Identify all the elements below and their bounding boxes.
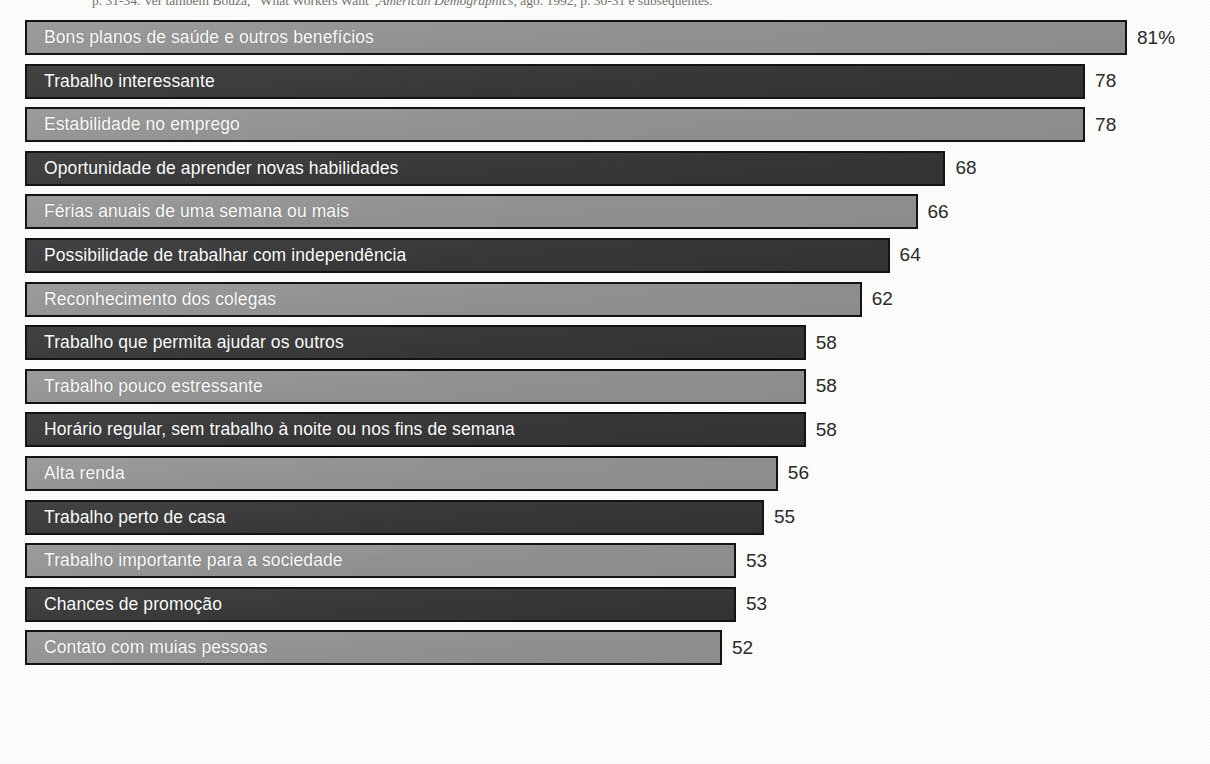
bar-value-label: 52 <box>732 630 753 665</box>
bar-category-label: Bons planos de saúde e outros benefícios <box>27 28 374 47</box>
horizontal-bar-chart: Bons planos de saúde e outros benefícios… <box>0 16 1210 764</box>
bar-value-label: 78 <box>1095 107 1116 142</box>
bar-category-label: Estabilidade no emprego <box>27 115 240 134</box>
bar-value-label: 58 <box>816 369 837 404</box>
bar-category-label: Horário regular, sem trabalho à noite ou… <box>27 420 515 439</box>
bar-category-label: Trabalho pouco estressante <box>27 377 263 396</box>
bar: Trabalho que permita ajudar os outros <box>25 325 806 360</box>
bar-row: Possibilidade de trabalhar com independê… <box>0 234 1210 278</box>
bar-category-label: Trabalho importante para a sociedade <box>27 551 343 570</box>
bar: Reconhecimento dos colegas <box>25 282 862 317</box>
bar-row: Bons planos de saúde e outros benefícios… <box>0 16 1210 60</box>
bar-value-label: 53 <box>746 543 767 578</box>
bar-value-label: 58 <box>816 325 837 360</box>
bar: Trabalho interessante <box>25 64 1085 99</box>
bar: Trabalho perto de casa <box>25 500 764 535</box>
bar: Trabalho pouco estressante <box>25 369 806 404</box>
bar-category-label: Alta renda <box>27 464 125 483</box>
citation-source-title: American Demographics <box>378 0 513 8</box>
bar: Bons planos de saúde e outros benefícios <box>25 20 1127 55</box>
bar: Trabalho importante para a sociedade <box>25 543 736 578</box>
bar-row: Alta renda56 <box>0 452 1210 496</box>
bar-row: Férias anuais de uma semana ou mais66 <box>0 190 1210 234</box>
bar-category-label: Trabalho perto de casa <box>27 508 226 527</box>
bar-category-label: Contato com muias pessoas <box>27 638 267 657</box>
bar-value-label: 56 <box>788 456 809 491</box>
bar: Horário regular, sem trabalho à noite ou… <box>25 412 806 447</box>
bar-category-label: Oportunidade de aprender novas habilidad… <box>27 159 398 178</box>
bar-row: Contato com muias pessoas52 <box>0 626 1210 670</box>
bar-value-label: 55 <box>774 500 795 535</box>
bar-row: Trabalho interessante78 <box>0 60 1210 104</box>
chart-page: p. 31-34. Ver também Bouza, “What Worker… <box>0 0 1210 764</box>
bar-value-label: 58 <box>816 412 837 447</box>
bar-value-label: 62 <box>872 282 893 317</box>
bar-value-label: 53 <box>746 587 767 622</box>
bar: Oportunidade de aprender novas habilidad… <box>25 151 945 186</box>
bar-value-label: 68 <box>955 151 976 186</box>
bar-row: Chances de promoção53 <box>0 583 1210 627</box>
bar-row: Trabalho que permita ajudar os outros58 <box>0 321 1210 365</box>
bar-category-label: Possibilidade de trabalhar com independê… <box>27 246 406 265</box>
bar-row: Reconhecimento dos colegas62 <box>0 278 1210 322</box>
citation-prefix: p. 31-34. Ver também Bouza, “What Worker… <box>92 0 378 8</box>
bar: Possibilidade de trabalhar com independê… <box>25 238 890 273</box>
bar-value-label: 66 <box>928 194 949 229</box>
bar-value-label: 81% <box>1137 20 1175 55</box>
bar-category-label: Trabalho que permita ajudar os outros <box>27 333 344 352</box>
bar-category-label: Reconhecimento dos colegas <box>27 290 276 309</box>
bar: Contato com muias pessoas <box>25 630 722 665</box>
bar-row: Oportunidade de aprender novas habilidad… <box>0 147 1210 191</box>
bar-category-label: Chances de promoção <box>27 595 222 614</box>
bar-category-label: Trabalho interessante <box>27 72 215 91</box>
bar-category-label: Férias anuais de uma semana ou mais <box>27 202 349 221</box>
bar-value-label: 78 <box>1095 64 1116 99</box>
citation-suffix: , ago. 1992, p. 30-31 e subsequentes. <box>513 0 712 8</box>
source-citation-text: p. 31-34. Ver também Bouza, “What Worker… <box>92 0 1132 8</box>
bar: Estabilidade no emprego <box>25 107 1085 142</box>
bar: Alta renda <box>25 456 778 491</box>
bar: Férias anuais de uma semana ou mais <box>25 194 918 229</box>
source-citation: p. 31-34. Ver também Bouza, “What Worker… <box>0 0 1210 14</box>
bar-value-label: 64 <box>900 238 921 273</box>
bar: Chances de promoção <box>25 587 736 622</box>
bar-row: Estabilidade no emprego78 <box>0 103 1210 147</box>
bar-row: Trabalho importante para a sociedade53 <box>0 539 1210 583</box>
bar-row: Horário regular, sem trabalho à noite ou… <box>0 408 1210 452</box>
bar-row: Trabalho pouco estressante58 <box>0 365 1210 409</box>
bar-row: Trabalho perto de casa55 <box>0 496 1210 540</box>
